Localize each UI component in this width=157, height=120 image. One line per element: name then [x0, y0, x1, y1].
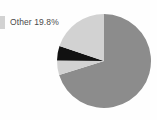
pie-chart [56, 13, 152, 109]
pie-chart-screenshot: Other 19.8% [0, 0, 157, 120]
legend-swatch-other [0, 16, 5, 29]
pie-chart-svg [56, 13, 152, 109]
legend-callout: Other 19.8% [0, 15, 59, 29]
pie-slice-group [57, 14, 151, 108]
legend-label-other: Other 19.8% [10, 17, 59, 27]
